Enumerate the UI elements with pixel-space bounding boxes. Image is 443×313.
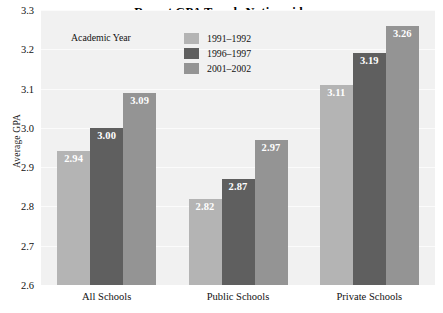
y-axis-tick-label: 2.8	[0, 201, 34, 212]
x-axis-tick-label: Public Schools	[207, 291, 270, 302]
x-axis-tick-label: All Schools	[82, 291, 131, 302]
bar-value-label: 3.26	[386, 28, 419, 39]
bar: 3.00	[90, 128, 123, 285]
y-axis-tick-label: 3.2	[0, 44, 34, 55]
legend-item: 1996–1997	[184, 46, 251, 61]
legend-swatch	[184, 63, 199, 74]
legend-item: 1991–1992	[184, 31, 251, 46]
gridline	[41, 10, 435, 11]
bar-value-label: 3.19	[353, 55, 386, 66]
legend-swatch	[184, 33, 199, 44]
bar-value-label: 2.87	[222, 181, 255, 192]
legend-swatch	[184, 48, 199, 59]
y-axis-tick-label: 3.1	[0, 83, 34, 94]
bar: 2.82	[189, 199, 222, 285]
bar: 3.19	[353, 53, 386, 285]
bar-value-label: 2.82	[189, 201, 222, 212]
bar: 3.26	[386, 26, 419, 285]
bar: 3.11	[320, 85, 353, 285]
y-axis-tick-label: 2.9	[0, 162, 34, 173]
legend-item-label: 1991–1992	[207, 34, 251, 44]
legend-title: Academic Year	[71, 32, 131, 43]
legend-item-label: 2001–2002	[207, 64, 251, 74]
bar-value-label: 2.94	[57, 153, 90, 164]
bar-value-label: 3.09	[123, 95, 156, 106]
legend-item: 2001–2002	[184, 61, 251, 76]
bar: 2.87	[222, 179, 255, 285]
bar-value-label: 3.11	[320, 87, 353, 98]
bar: 2.97	[255, 140, 288, 285]
legend-item-label: 1996–1997	[207, 49, 251, 59]
bar-value-label: 3.00	[90, 130, 123, 141]
y-axis-tick-label: 3.0	[0, 122, 34, 133]
y-axis-tick-label: 2.7	[0, 240, 34, 251]
y-axis-tick-labels: 2.62.72.82.93.03.13.23.3	[0, 0, 38, 313]
y-axis-tick-label: 3.3	[0, 5, 34, 16]
bar-value-label: 2.97	[255, 142, 288, 153]
bar: 2.94	[57, 151, 90, 285]
x-axis-tick-label: Private Schools	[337, 291, 403, 302]
chart-figure: Recent GPA Trends Nationwide Average GPA…	[0, 0, 443, 313]
y-axis-tick-label: 2.6	[0, 280, 34, 291]
bar: 3.09	[123, 93, 156, 286]
